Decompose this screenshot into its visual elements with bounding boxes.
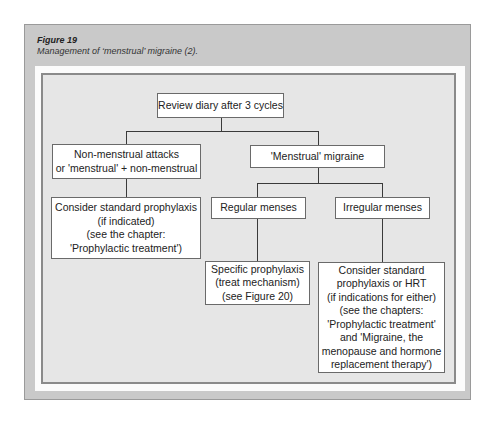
node-menstrual-migraine: 'Menstrual' migraine bbox=[250, 145, 385, 168]
connector-regular-down bbox=[257, 219, 258, 261]
node-non-menstrual-attacks: Non-menstrual attacks or 'menstrual' + n… bbox=[52, 144, 201, 179]
connector-menstrual-down bbox=[318, 168, 319, 183]
node-consider-standard-prophylaxis: Consider standard prophylaxis (if indica… bbox=[51, 197, 201, 259]
connector-to-irregular bbox=[382, 183, 383, 197]
node-regular-menses: Regular menses bbox=[211, 197, 306, 219]
node-review-diary: Review diary after 3 cycles bbox=[157, 93, 284, 118]
node-irregular-menses: Irregular menses bbox=[335, 197, 430, 219]
connector-level1-horizontal bbox=[126, 131, 319, 132]
connector-level2-horizontal bbox=[257, 183, 383, 184]
node-consider-prophylaxis-or-hrt: Consider standard prophylaxis or HRT (if… bbox=[318, 262, 445, 373]
connector-irregular-down bbox=[382, 219, 383, 262]
connector-to-menstrual bbox=[318, 131, 319, 145]
connector-to-non-menstrual bbox=[126, 131, 127, 144]
connector-to-regular bbox=[257, 183, 258, 197]
connector-non-menstrual-down bbox=[126, 179, 127, 197]
connector-review-down bbox=[221, 118, 222, 132]
figure-label: Figure 19 bbox=[37, 35, 77, 45]
node-specific-prophylaxis: Specific prophylaxis (treat mechanism) (… bbox=[205, 261, 310, 305]
figure-caption: Management of ‘menstrual’ migraine (2). bbox=[37, 46, 198, 56]
